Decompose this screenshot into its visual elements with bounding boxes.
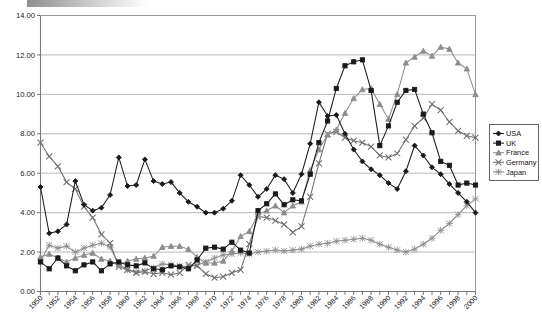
data-point-marker (438, 107, 444, 113)
asterisk-marker (342, 237, 349, 244)
asterisk-marker (385, 244, 392, 251)
data-point-marker (298, 246, 305, 253)
y-axis-label: 12.00 (16, 51, 35, 60)
asterisk-marker (142, 268, 149, 275)
triangle-marker (99, 256, 104, 261)
data-point-marker (134, 264, 138, 268)
data-point-marker (299, 223, 305, 229)
x-marker (446, 119, 452, 125)
diamond-marker (334, 113, 339, 118)
x-marker (46, 153, 52, 159)
asterisk-marker (159, 261, 166, 268)
data-point-marker (420, 241, 427, 248)
asterisk-marker (46, 242, 53, 249)
asterisk-marker (255, 249, 262, 256)
x-marker (55, 163, 61, 169)
triangle-marker (238, 234, 243, 239)
triangle-marker (325, 132, 330, 137)
asterisk-marker (394, 247, 401, 254)
x-marker (272, 218, 278, 224)
data-point-marker (455, 211, 462, 218)
chart-legend: USAUKFranceGermanyJapan (490, 125, 539, 181)
data-point-marker (203, 271, 209, 277)
legend-label-uk: UK (506, 139, 516, 148)
diamond-marker (308, 141, 313, 146)
data-point-marker (255, 249, 262, 256)
x-axis-label: 1992 (392, 294, 410, 312)
square-marker (465, 181, 469, 185)
x-axis-label: 1952 (44, 294, 62, 312)
x-axis-label: 1982 (305, 294, 323, 312)
square-marker (47, 267, 51, 271)
data-point-marker (178, 265, 182, 269)
x-axis-label: 1954 (62, 294, 80, 312)
asterisk-marker (377, 241, 384, 248)
data-point-marker (63, 243, 70, 250)
data-point-marker (99, 269, 103, 273)
data-point-marker (89, 242, 96, 249)
square-marker (65, 264, 69, 268)
data-point-marker (142, 157, 147, 162)
x-axis-label: 1968 (183, 294, 201, 312)
x-marker (90, 215, 96, 221)
data-point-marker (282, 177, 287, 182)
data-point-marker (308, 172, 312, 176)
data-point-marker (186, 267, 190, 271)
x-axis-label: 1962 (131, 294, 149, 312)
diamond-marker (290, 190, 295, 195)
square-marker (239, 248, 243, 252)
triangle-marker (90, 250, 95, 255)
data-point-marker (229, 248, 234, 253)
x-axis-label: 1956 (79, 294, 97, 312)
data-point-marker (90, 215, 96, 221)
x-axis-label: 1996 (427, 294, 445, 312)
x-axis-label: 1998 (444, 294, 462, 312)
data-point-marker (438, 44, 443, 49)
asterisk-marker (81, 245, 88, 252)
data-point-marker (238, 234, 243, 239)
x-marker (64, 179, 70, 185)
data-point-marker (159, 261, 166, 268)
data-point-marker (496, 141, 500, 145)
asterisk-marker (272, 247, 279, 254)
data-point-marker (142, 268, 149, 275)
chart-page: 0.002.004.006.008.0010.0012.0014.0019501… (0, 0, 542, 335)
data-point-marker (472, 196, 479, 203)
data-point-marker (421, 112, 425, 116)
square-marker (360, 58, 364, 62)
data-point-marker (239, 248, 243, 252)
x-marker (455, 128, 461, 134)
x-axis-label: 1960 (114, 294, 132, 312)
data-point-marker (316, 241, 323, 248)
asterisk-marker (368, 237, 375, 244)
data-point-marker (125, 263, 129, 267)
data-point-marker (394, 151, 400, 157)
triangle-marker (273, 203, 278, 208)
asterisk-marker (359, 235, 366, 242)
data-point-marker (221, 247, 225, 251)
x-marker (290, 229, 296, 235)
x-axis-label: 1990 (375, 294, 393, 312)
square-marker (456, 183, 460, 187)
x-marker (438, 107, 444, 113)
data-point-marker (456, 183, 460, 187)
data-point-marker (82, 263, 86, 267)
data-point-marker (212, 245, 216, 249)
triangle-marker (264, 208, 269, 213)
square-marker (404, 88, 408, 92)
data-point-marker (429, 101, 435, 107)
asterisk-marker (437, 227, 444, 234)
data-point-marker (46, 242, 53, 249)
data-point-marker (281, 248, 288, 255)
x-axis-label: 1994 (410, 294, 428, 312)
asterisk-marker (455, 211, 462, 218)
series-france (38, 44, 478, 267)
data-point-marker (403, 60, 408, 65)
data-point-marker (316, 100, 321, 105)
square-marker (152, 267, 156, 271)
legend-label-germany: Germany (506, 158, 537, 167)
x-marker (307, 194, 313, 200)
data-point-marker (342, 237, 349, 244)
square-marker (496, 141, 500, 145)
x-axis-label: 1980 (288, 294, 306, 312)
